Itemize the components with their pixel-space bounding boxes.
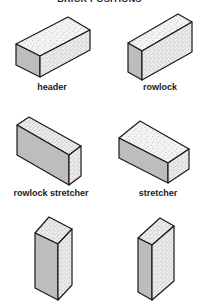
label-stretcher: stretcher xyxy=(139,188,178,198)
brick-rowlock-stretcher-shape xyxy=(17,117,81,185)
brick-header-shape xyxy=(16,17,90,77)
brick-diagram xyxy=(0,0,199,304)
brick-rowlock-shape xyxy=(128,14,192,80)
brick-stretcher-shape xyxy=(119,121,189,183)
label-header: header xyxy=(37,82,67,92)
label-rowlock: rowlock xyxy=(143,82,177,92)
brick-soldier-shape xyxy=(35,217,72,300)
brick-sailor-shape xyxy=(138,218,174,300)
label-rowlock-stretcher: rowlock stretcher xyxy=(13,188,88,198)
